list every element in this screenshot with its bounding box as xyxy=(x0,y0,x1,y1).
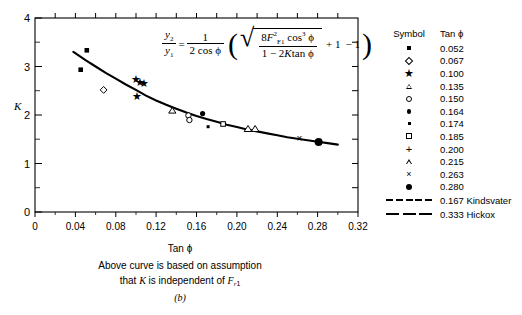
caption-F-sub2: 1 xyxy=(236,280,240,287)
eq-F-sup: 2 xyxy=(274,30,278,38)
legend-symbol-plus: + xyxy=(378,145,440,153)
eq-y1-sub: 1 xyxy=(170,51,174,59)
data-series-0.263: × xyxy=(297,133,303,144)
legend-value: 0.135 xyxy=(440,81,522,92)
legend-value: 0.164 xyxy=(440,106,522,117)
legend-value: 0.280 xyxy=(440,181,522,192)
equation-radical: √ 8F2F1 cos3 ϕ 1 − 2Ktan ϕ xyxy=(240,28,322,59)
eq-cos: cos xyxy=(287,31,302,43)
eq-2cos: 2 cos xyxy=(190,44,216,56)
legend-value: 0.167 Kindsvater xyxy=(440,195,522,206)
equation-prefactor: 1 2 cos ϕ xyxy=(187,31,224,56)
legend-symbol-filled-square xyxy=(378,46,440,50)
svg-text:3: 3 xyxy=(24,61,30,73)
x-axis-top-ticks xyxy=(55,13,338,18)
legend-item-0.215[interactable]: 0.215 xyxy=(378,155,522,168)
plus-icon: + xyxy=(406,145,412,153)
radicand-numerator: 8F2F1 cos3 ϕ xyxy=(258,30,317,46)
legend-value: 0.215 xyxy=(440,156,522,167)
svg-text:4: 4 xyxy=(24,12,30,24)
legend-value: 0.100 xyxy=(440,68,522,79)
caption-K: K xyxy=(139,275,146,286)
legend-item-0.185[interactable]: 0.185 xyxy=(378,130,522,143)
legend-item-0.052[interactable]: 0.052 xyxy=(378,42,522,55)
legend-item-0.174[interactable]: 0.174 xyxy=(378,118,522,131)
legend-item-kindsvater[interactable]: 0.167 Kindsvater xyxy=(378,193,522,207)
data-series-0.280 xyxy=(315,138,323,146)
equation-annotation: y2 y1 = 1 2 cos ϕ ( √ 8F2F1 cos3 ϕ 1 − 2… xyxy=(160,28,374,59)
svg-text:0.28: 0.28 xyxy=(308,221,328,232)
legend-item-0.135[interactable]: 0.135 xyxy=(378,80,522,93)
eq-F-sub2: 1 xyxy=(281,38,285,46)
legend-value: 0.052 xyxy=(440,43,522,54)
figure-container: 4 3 2 1 0 0 0.04 0.08 0.12 0.16 0.20 0.2… xyxy=(0,0,522,315)
legend-value: 0.263 xyxy=(440,169,522,180)
legend-value: 0.150 xyxy=(440,93,522,104)
svg-text:0: 0 xyxy=(24,206,30,218)
panel-label-text: (b) xyxy=(174,292,186,303)
eq-one: 1 xyxy=(200,31,212,43)
svg-text:×: × xyxy=(297,133,303,144)
eq-tan: tan xyxy=(292,47,308,59)
eq-open-paren: ( xyxy=(228,32,238,56)
svg-text:2: 2 xyxy=(24,109,30,121)
eq-cos-sup: 3 xyxy=(302,30,306,38)
eq-phi-2: ϕ xyxy=(308,31,314,43)
star-icon: ★ xyxy=(404,70,414,76)
radicand-denominator: 1 − 2Ktan ϕ xyxy=(259,46,317,59)
legend-symbol-small-dot xyxy=(378,122,440,125)
eq-phi-3: ϕ xyxy=(308,47,314,59)
radicand-fraction: 8F2F1 cos3 ϕ 1 − 2Ktan ϕ xyxy=(258,30,317,59)
svg-text:0.04: 0.04 xyxy=(66,221,86,232)
figure-caption: Above curve is based on assumption that … xyxy=(0,258,360,292)
eq-equals: = xyxy=(178,38,184,50)
legend-symbol-dashed-short xyxy=(378,199,440,201)
legend-item-0.067[interactable]: 0.067 xyxy=(378,55,522,68)
y-tick-labels: 4 3 2 1 0 xyxy=(24,12,30,218)
legend-symbol-filled-circle-small xyxy=(378,109,440,114)
y-axis-major-ticks xyxy=(35,18,42,212)
eq-plus-one: + 1 xyxy=(326,38,340,50)
radical-sign: √ xyxy=(240,28,254,59)
x-tick-labels: 0 0.04 0.08 0.12 0.16 0.20 0.24 0.28 0.3… xyxy=(32,221,368,232)
legend-item-0.100[interactable]: ★ 0.100 xyxy=(378,67,522,80)
eq-minus-one: − 1 xyxy=(345,38,359,50)
legend-item-0.200[interactable]: + 0.200 xyxy=(378,143,522,156)
y-axis-right-ticks xyxy=(352,42,358,188)
data-series-0.067 xyxy=(100,87,107,94)
eq-F: F xyxy=(267,31,274,43)
legend-value: 0.200 xyxy=(440,144,522,155)
eq-y2-sub: 2 xyxy=(170,35,174,43)
cross-icon: × xyxy=(406,170,411,178)
caption-mid: is independent of xyxy=(146,275,228,286)
eq-K: K xyxy=(284,47,291,59)
radicand: 8F2F1 cos3 ϕ 1 − 2Ktan ϕ xyxy=(253,28,322,59)
svg-text:1: 1 xyxy=(24,158,30,170)
svg-text:0.12: 0.12 xyxy=(146,221,166,232)
legend-header: Symbol Tan ϕ xyxy=(378,28,522,39)
legend-item-0.263[interactable]: × 0.263 xyxy=(378,168,522,181)
data-series-0.174 xyxy=(207,125,210,128)
svg-text:★: ★ xyxy=(132,90,142,103)
legend-symbol-dashed-long xyxy=(378,213,440,215)
legend-symbol-open-diamond xyxy=(378,58,440,64)
legend-symbol-open-square xyxy=(378,133,440,139)
legend-symbol-small-triangle xyxy=(378,84,440,89)
data-series-0.150 xyxy=(186,113,192,123)
legend-value: 0.333 Hickox xyxy=(440,209,522,220)
legend-item-0.280[interactable]: 0.280 xyxy=(378,181,522,194)
legend-header-symbol: Symbol xyxy=(378,28,440,39)
legend-symbol-cross: × xyxy=(378,170,440,178)
x-axis-major-ticks xyxy=(35,212,358,217)
caption-that: that xyxy=(120,275,139,286)
svg-text:0.20: 0.20 xyxy=(227,221,247,232)
legend-item-hickox[interactable]: 0.333 Hickox xyxy=(378,207,522,221)
legend-value: 0.185 xyxy=(440,131,522,142)
eq-phi-1: ϕ xyxy=(215,44,221,56)
legend-item-0.164[interactable]: 0.164 xyxy=(378,105,522,118)
legend-item-0.150[interactable]: 0.150 xyxy=(378,92,522,105)
legend-value: 0.067 xyxy=(440,55,522,66)
y-axis-title: K xyxy=(14,100,21,112)
eq-close-paren: ) xyxy=(362,32,372,56)
x-axis-title: Tan ϕ xyxy=(0,243,360,254)
